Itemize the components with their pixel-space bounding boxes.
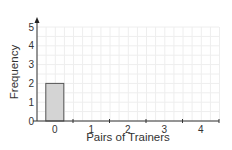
y-tick-label: 3 — [28, 59, 34, 70]
bar-0 — [46, 83, 64, 121]
x-tick-label: 0 — [52, 124, 58, 135]
x-axis-title: Pairs of Trainers — [86, 131, 170, 143]
bar-chart: 012345 01234 Pairs of Trainers Frequency — [0, 0, 232, 150]
grid-lines — [37, 27, 220, 121]
y-tick-label: 1 — [28, 97, 34, 108]
y-axis-arrow-icon — [35, 17, 40, 23]
y-tick-label: 4 — [28, 40, 34, 51]
bars — [46, 83, 64, 121]
y-axis-title: Frequency — [8, 45, 20, 100]
y-tick-label: 2 — [28, 78, 34, 89]
y-tick-label: 5 — [28, 22, 34, 33]
y-tick-labels: 012345 — [28, 22, 34, 127]
x-tick-label: 4 — [198, 124, 204, 135]
y-tick-label: 0 — [28, 116, 34, 127]
